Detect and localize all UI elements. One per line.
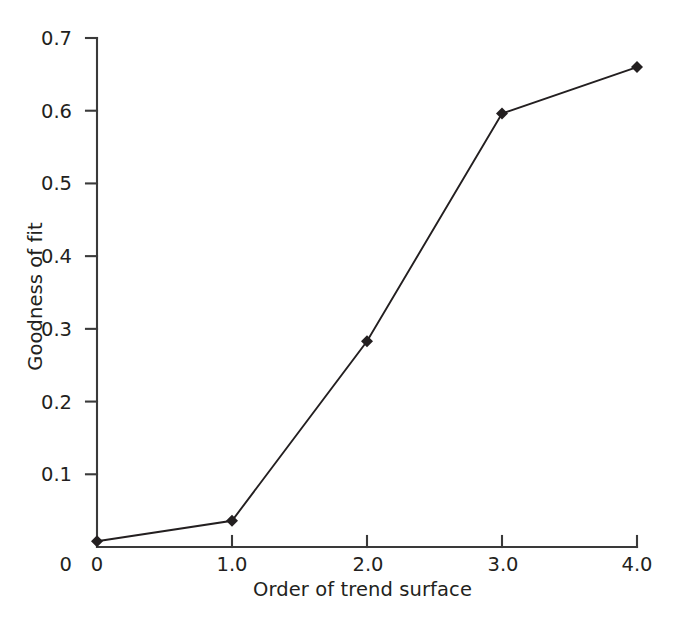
x-axis-ticks: [232, 536, 637, 547]
data-point-marker: [496, 108, 508, 120]
x-tick-label-0: 0: [67, 553, 127, 576]
x-tick-label-4: 4.0: [607, 553, 667, 576]
y-tick-label-0: 0: [12, 553, 72, 576]
data-series-line: [97, 67, 637, 541]
x-tick-label-2: 2.0: [338, 553, 398, 576]
y-axis-title: Goodness of fit: [24, 147, 47, 447]
data-point-markers: [91, 61, 643, 547]
x-tick-label-1: 1.0: [202, 553, 262, 576]
data-point-marker: [91, 535, 103, 547]
y-tick-label-0-7: 0.7: [12, 27, 72, 50]
y-axis-ticks: [86, 38, 97, 474]
y-tick-label-0-6: 0.6: [12, 100, 72, 123]
x-axis-title: Order of trend surface: [0, 578, 683, 601]
y-tick-label-0-1: 0.1: [12, 463, 72, 486]
data-point-marker: [631, 61, 643, 73]
line-chart-plot: [0, 0, 683, 627]
x-tick-label-3: 3.0: [473, 553, 533, 576]
chart-figure: 0.7 0.6 0.5 0.4 0.3 0.2 0.1 0 0 1.0 2.0 …: [0, 0, 683, 627]
